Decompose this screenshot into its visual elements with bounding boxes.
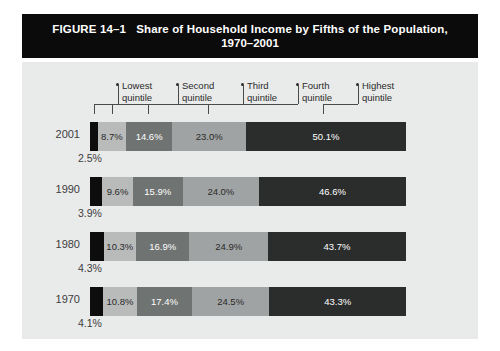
legend-leader-tip [208, 104, 209, 114]
bar-segment: 24.0% [183, 177, 259, 206]
bar-segment [90, 177, 102, 206]
legend-label-line-1: Highest [362, 80, 394, 91]
row-year-label: 1980 [36, 238, 80, 250]
chart-row: 197010.8%17.4%24.5%43.3%4.1% [22, 285, 478, 331]
legend-leader-elbow [208, 104, 298, 105]
bar-segment: 24.5% [192, 287, 269, 316]
stacked-bar: 8.7%14.6%23.0%50.1% [90, 122, 406, 151]
lowest-quintile-callout: 3.9% [78, 207, 102, 219]
legend-leader-tip [148, 104, 149, 114]
legend-label-line-1: Third [247, 80, 269, 91]
figure-title-line-1: FIGURE 14–1Share of Household Income by … [52, 22, 447, 36]
legend-label-line-1: Lowest [122, 80, 152, 91]
bar-segment: 50.1% [246, 122, 406, 151]
row-year-label: 1970 [36, 293, 80, 305]
legend-label-line-1: Fourth [302, 80, 329, 91]
legend-leader-line [118, 84, 119, 104]
chart-row: 20018.7%14.6%23.0%50.1%2.5% [22, 120, 478, 166]
chart-plot-area: LowestquintileSecondquintileThirdquintil… [22, 62, 478, 339]
legend-item-lowest: Lowestquintile [122, 80, 152, 103]
row-year-label: 2001 [36, 128, 80, 140]
legend-item-second: Secondquintile [182, 80, 214, 103]
bar-segment [90, 232, 104, 261]
figure-container: FIGURE 14–1Share of Household Income by … [22, 14, 478, 339]
bar-segment [90, 287, 103, 316]
bar-segment: 14.6% [126, 122, 173, 151]
legend-label-line-2: quintile [302, 92, 332, 104]
bar-segment: 17.4% [137, 287, 192, 316]
stacked-bar: 10.8%17.4%24.5%43.3% [90, 287, 406, 316]
figure-title-text: Share of Household Income by Fifths of t… [136, 23, 448, 35]
chart-row: 198010.3%16.9%24.9%43.7%4.3% [22, 230, 478, 276]
bar-segment: 23.0% [172, 122, 245, 151]
stacked-bar: 10.3%16.9%24.9%43.7% [90, 232, 406, 261]
bar-segment: 43.7% [268, 232, 406, 261]
chart-legend: LowestquintileSecondquintileThirdquintil… [22, 62, 478, 114]
legend-item-highest: Highestquintile [362, 80, 394, 103]
lowest-quintile-callout: 2.5% [78, 152, 102, 164]
chart-row: 19909.6%15.9%24.0%46.6%3.9% [22, 175, 478, 221]
legend-leader-tip [94, 104, 95, 114]
bar-segment: 46.6% [259, 177, 406, 206]
bar-segment: 43.3% [269, 287, 406, 316]
bar-segment: 15.9% [133, 177, 183, 206]
bar-segment: 16.9% [136, 232, 189, 261]
stacked-bar: 9.6%15.9%24.0%46.6% [90, 177, 406, 206]
legend-label-line-1: Second [182, 80, 214, 91]
legend-leader-tip [112, 104, 113, 114]
legend-leader-line [298, 84, 299, 104]
legend-leader-line [243, 84, 244, 104]
legend-leader-line [358, 84, 359, 104]
legend-label-line-2: quintile [122, 92, 152, 104]
legend-label-line-2: quintile [362, 92, 394, 104]
bar-segment: 24.9% [189, 232, 268, 261]
legend-label-line-2: quintile [182, 92, 214, 104]
bar-segment: 8.7% [98, 122, 126, 151]
legend-item-third: Thirdquintile [247, 80, 277, 103]
bar-segment: 10.3% [104, 232, 137, 261]
legend-item-fourth: Fourthquintile [302, 80, 332, 103]
lowest-quintile-callout: 4.3% [78, 262, 102, 274]
legend-label-line-2: quintile [247, 92, 277, 104]
bar-segment: 9.6% [102, 177, 132, 206]
bar-segment: 10.8% [103, 287, 137, 316]
legend-leader-line [178, 84, 179, 104]
figure-title-line-2: 1970–2001 [221, 36, 279, 50]
bar-segment [90, 122, 98, 151]
legend-leader-tip [323, 104, 324, 114]
lowest-quintile-callout: 4.1% [78, 317, 102, 329]
figure-number: FIGURE 14–1 [52, 23, 126, 35]
figure-title-banner: FIGURE 14–1Share of Household Income by … [22, 14, 478, 58]
legend-leader-elbow [323, 104, 358, 105]
row-year-label: 1990 [36, 183, 80, 195]
